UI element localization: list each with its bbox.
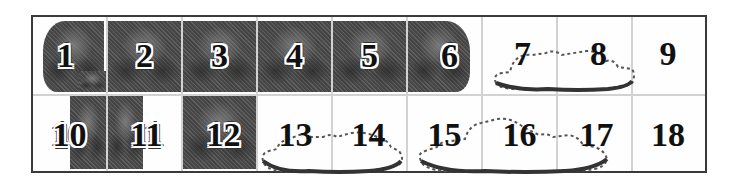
tile-label: 6 (418, 39, 481, 73)
tile-3: 3 (183, 17, 256, 94)
tile-5: 5 (333, 17, 406, 94)
tile-label: 15 (408, 118, 481, 152)
tile-11: 11 (108, 96, 181, 173)
tile-label: 4 (258, 39, 331, 73)
dark-fill (79, 71, 106, 92)
tile-label: 14 (331, 118, 406, 152)
tile-label: 11 (112, 118, 181, 152)
tile-label: 16 (483, 118, 556, 152)
tile-grid: 1 2 3 4 5 6 7 8 (33, 17, 705, 171)
tile-12: 12 (183, 96, 256, 173)
tile-15: 15 (408, 96, 481, 173)
tile-label: 3 (183, 39, 256, 73)
tile-1: 1 (33, 17, 106, 94)
tile-8: 8 (558, 17, 631, 94)
tile-14: 14 (333, 96, 406, 173)
tile-6: 6 (408, 17, 481, 94)
tile-18: 18 (633, 96, 707, 173)
tile-label: 10 (33, 118, 106, 152)
tile-2: 2 (108, 17, 181, 94)
tile-label: 2 (108, 39, 181, 73)
tile-4: 4 (258, 17, 331, 94)
tile-17: 17 (558, 96, 631, 173)
tile-13: 13 (258, 96, 331, 173)
tile-10: 10 (33, 96, 106, 173)
tile-label: 17 (562, 118, 631, 152)
tile-16: 16 (483, 96, 556, 173)
tile-label: 8 (566, 37, 631, 71)
tile-label: 18 (629, 118, 707, 152)
tile-label: 5 (333, 39, 406, 73)
tile-label: 13 (260, 118, 331, 152)
tile-7: 7 (483, 17, 556, 94)
tile-label: 7 (489, 37, 556, 71)
tile-grid-frame: 1 2 3 4 5 6 7 8 (31, 15, 707, 173)
tile-label: 9 (629, 37, 707, 71)
tile-label: 1 (25, 39, 106, 73)
tile-label: 12 (191, 118, 256, 152)
tile-9: 9 (633, 17, 707, 94)
